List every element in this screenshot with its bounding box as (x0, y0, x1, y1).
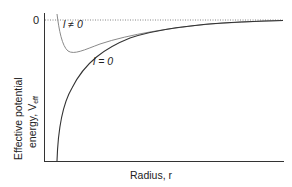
label-l-zero: l = 0 (93, 55, 113, 67)
label-l-nonzero: l ≠ 0 (63, 18, 83, 30)
y-axis-label-line2: energy, Veff (26, 96, 39, 148)
x-axis-label: Radius, r (130, 169, 173, 181)
y-tick-zero: 0 (33, 14, 39, 26)
potential-chart: 0 l ≠ 0 l = 0 Radius, r Effective potent… (0, 0, 292, 187)
y-axis-label-line1: Effective potential (12, 77, 24, 160)
curve-l-zero (57, 21, 283, 162)
